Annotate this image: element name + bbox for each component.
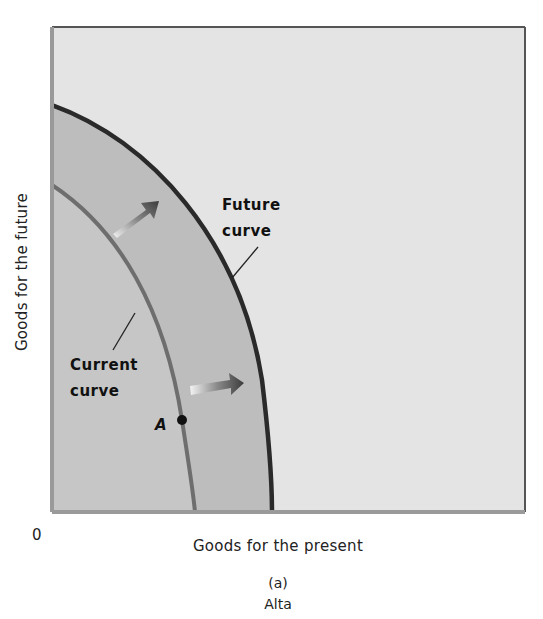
point-a-marker	[177, 415, 187, 425]
future-curve-label-line2: curve	[222, 218, 281, 244]
diagram-canvas: Goods for the future Goods for the prese…	[0, 0, 543, 619]
current-curve-label-line2: curve	[70, 378, 138, 404]
panel-label: (a)	[268, 575, 288, 591]
future-curve-label-line1: Future	[222, 192, 281, 218]
point-a-label: A	[155, 416, 167, 434]
x-axis-label: Goods for the present	[193, 537, 363, 555]
ppf-diagram	[0, 0, 543, 619]
origin-label: 0	[32, 526, 42, 544]
y-axis-label: Goods for the future	[13, 193, 31, 351]
current-curve-label: Current curve	[70, 352, 138, 404]
future-curve-label: Future curve	[222, 192, 281, 244]
current-curve-label-line1: Current	[70, 352, 138, 378]
panel-caption: Alta	[264, 596, 292, 612]
